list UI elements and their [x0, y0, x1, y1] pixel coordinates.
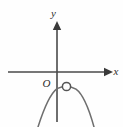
- figure-background: [0, 0, 123, 127]
- origin-label: O: [43, 77, 51, 89]
- open-circle-vertex-marker: [62, 82, 70, 90]
- y-axis-label: y: [50, 7, 56, 19]
- x-axis-label: x: [113, 65, 119, 77]
- coordinate-plane-svg: y x O: [0, 0, 123, 127]
- graph-figure: y x O: [0, 0, 123, 127]
